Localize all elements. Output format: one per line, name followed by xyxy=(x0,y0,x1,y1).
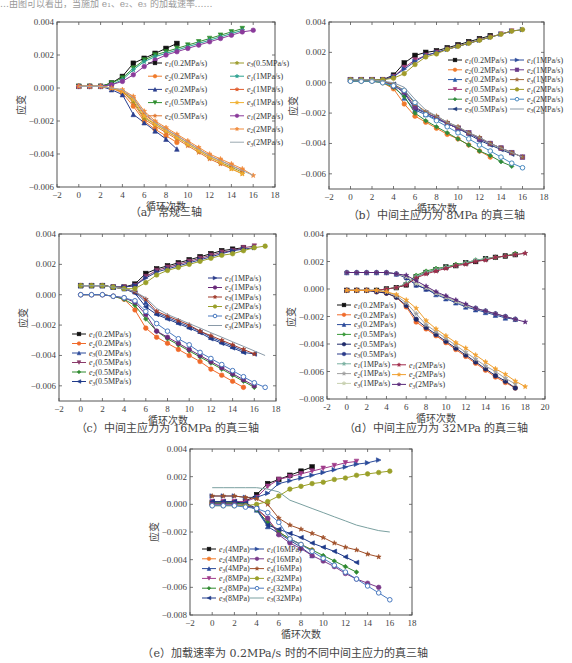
legend-label: e3(1MPa/s) xyxy=(247,98,283,108)
circle-marker xyxy=(164,53,169,58)
square-marker xyxy=(153,61,157,65)
y-tick-label: 0.002 xyxy=(306,47,326,57)
star-marker xyxy=(523,319,528,324)
caption-c: （c）中间主应力为 16MPa 的真三轴 xyxy=(59,419,276,435)
star-marker xyxy=(365,552,370,557)
circle-marker xyxy=(376,470,381,475)
open-circle-marker xyxy=(221,503,226,508)
star-marker xyxy=(235,87,239,91)
circle-marker xyxy=(131,73,136,78)
circle-marker xyxy=(153,74,157,78)
y-tick-label: 0.000 xyxy=(306,78,327,88)
star-marker xyxy=(397,363,401,367)
legend: e1(0.2MPa/s)e2(0.2MPa/s)e3(0.2MPa/s)e1(0… xyxy=(448,56,563,115)
circle-marker xyxy=(509,29,514,34)
open-circle-marker xyxy=(310,549,315,554)
legend-label: e2(2MPa/s) xyxy=(247,125,283,135)
circle-marker xyxy=(230,251,235,256)
star-marker xyxy=(397,382,401,386)
x-tick-label: 2 xyxy=(370,192,375,202)
x-tick-label: 6 xyxy=(142,190,147,200)
triangle-left-marker xyxy=(332,549,337,554)
diamond-marker xyxy=(77,370,81,374)
legend-label: e3(2MPa/s) xyxy=(527,105,563,115)
x-axis-label: 循环次数 xyxy=(281,628,321,640)
x-tick-label: 8 xyxy=(434,192,439,202)
circle-marker xyxy=(477,38,482,43)
y-tick-label: 0.004 xyxy=(36,229,57,239)
x-tick-label: 6 xyxy=(144,404,149,414)
open-circle-marker xyxy=(255,586,259,590)
x-tick-label: 4 xyxy=(122,404,127,414)
star-marker xyxy=(235,74,239,78)
legend-label: e1(16MPa) xyxy=(267,545,302,555)
circle-marker xyxy=(154,335,159,340)
circle-marker xyxy=(493,373,498,378)
x-tick-label: 12 xyxy=(475,192,484,202)
legend-label: e2(0.2MPa/s) xyxy=(165,72,207,82)
circle-marker xyxy=(187,353,192,358)
x-tick-label: 0 xyxy=(348,192,353,202)
open-circle-marker xyxy=(232,503,237,508)
legend-label: e2(4MPa) xyxy=(219,555,250,565)
legend-label: e3(0.2MPa/s) xyxy=(89,349,131,359)
series-line xyxy=(79,86,243,173)
legend-label: e1(0.5MPa/s) xyxy=(465,85,507,95)
y-tick-label: 0.000 xyxy=(167,499,188,509)
circle-marker xyxy=(187,262,192,267)
x-tick-label: 6 xyxy=(404,402,409,412)
diamond-marker xyxy=(453,97,457,101)
star-marker xyxy=(523,384,528,389)
open-circle-marker xyxy=(198,350,203,355)
legend-label: e2(1MPa/s) xyxy=(354,369,390,379)
y-tick-label: −0.004 xyxy=(162,555,188,565)
star-marker xyxy=(342,372,346,376)
circle-marker xyxy=(342,313,346,317)
legend-label: e2(32MPa) xyxy=(267,584,302,594)
circle-marker xyxy=(299,484,304,489)
star-marker xyxy=(310,531,315,536)
triangle-left-marker xyxy=(343,555,348,560)
square-marker xyxy=(207,547,211,551)
circle-marker xyxy=(414,317,419,322)
legend-label: e1(0.2MPa/s) xyxy=(165,59,207,69)
legend-label: e3(1MPa/s) xyxy=(527,75,563,85)
square-marker xyxy=(175,41,180,46)
triangle-right-marker xyxy=(213,276,217,280)
circle-marker xyxy=(342,352,346,356)
x-tick-label: 2 xyxy=(98,190,103,200)
open-circle-marker xyxy=(515,97,519,101)
circle-marker xyxy=(277,494,282,499)
x-tick-label: 18 xyxy=(521,402,531,412)
circle-marker xyxy=(213,305,217,309)
triangle-right-marker xyxy=(255,547,259,551)
circle-marker xyxy=(235,114,239,118)
diamond-marker xyxy=(207,586,211,590)
open-circle-marker xyxy=(265,510,270,515)
legend-label: e2(16MPa) xyxy=(267,555,302,565)
legend-label: e3(2MPa/s) xyxy=(225,321,261,331)
y-tick-label: −0.002 xyxy=(31,320,56,330)
circle-marker xyxy=(77,342,81,346)
x-tick-label: 4 xyxy=(391,192,396,202)
star-marker xyxy=(235,61,239,65)
circle-marker xyxy=(388,469,393,474)
legend-label: e3(0.5MPa/s) xyxy=(247,59,289,69)
series-line xyxy=(212,488,390,532)
y-tick-label: 0.000 xyxy=(36,290,57,300)
square-marker xyxy=(77,332,81,336)
open-circle-marker xyxy=(100,292,105,297)
x-tick-label: 20 xyxy=(541,402,551,412)
open-circle-marker xyxy=(499,155,504,160)
open-circle-marker xyxy=(391,83,396,88)
caption-d: （d）中间主应力为 32MPa 的真三轴 xyxy=(327,419,545,435)
x-tick-label: 12 xyxy=(461,402,470,412)
circle-marker xyxy=(453,68,457,72)
legend-label: e2(0.2MPa/s) xyxy=(89,339,131,349)
circle-marker xyxy=(144,280,149,285)
legend-label: e3(0.5MPa/s) xyxy=(89,377,131,387)
square-marker xyxy=(131,61,136,66)
legend-label: e1(1MPa/s) xyxy=(527,56,563,66)
open-circle-marker xyxy=(365,584,370,589)
circle-marker xyxy=(342,342,346,346)
